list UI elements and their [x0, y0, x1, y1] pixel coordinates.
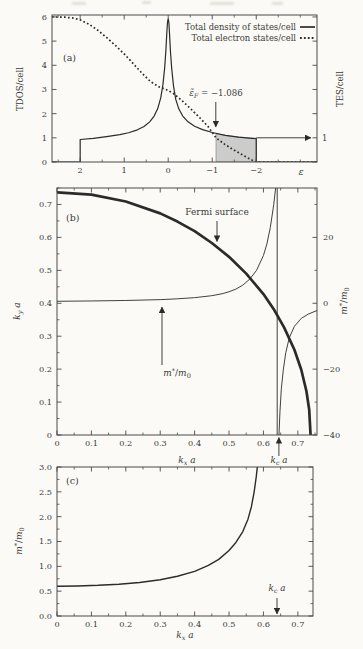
panel-c-ticks: 00.10.20.30.40.50.60.70.00.51.01.52.02.5… — [39, 462, 313, 629]
panel-c-y-tick-label: 0.0 — [39, 611, 52, 621]
panel-c-x-tick-label: 0 — [54, 619, 59, 629]
kc-annotation-b: kc a — [271, 455, 288, 466]
panel-b-x-tick-label: 0.3 — [154, 438, 167, 448]
panel-a-x-tick-label: 1 — [122, 165, 127, 175]
figure: 210−1−20123456(a)Total density of states… — [0, 0, 363, 649]
panel-b-y2-tick-label: 0 — [323, 298, 328, 308]
panel-b-y-tick-label: 0.1 — [39, 397, 52, 407]
panel-b-y2-tick-label: −40 — [323, 430, 340, 440]
x-axis-title-c: kx a — [176, 630, 193, 642]
panel-b-y-tick-label: 0.7 — [39, 199, 52, 209]
panel-a-y-tick-label: 0 — [42, 157, 47, 167]
panel-c-x-tick-label: 0.1 — [85, 619, 98, 629]
panel-b-y-tick-label: 0 — [47, 430, 52, 440]
panel-b-y2-tick-label: −20 — [323, 364, 340, 374]
panel-c-y-tick-label: 1.5 — [39, 536, 52, 546]
y-axis-title-b: ky a — [12, 302, 24, 319]
y-axis-title-a: TDOS/cell — [15, 67, 25, 111]
y-axis-title-c: m*/m0 — [13, 527, 27, 555]
panel-b-x-tick-label: 0 — [54, 438, 59, 448]
panel-b-y-tick-label: 0.4 — [39, 298, 52, 308]
x-axis-title-a: ε — [298, 166, 303, 177]
panel-c-y-tick-label: 2.0 — [39, 512, 52, 522]
panel-a-x-tick-label: −1 — [206, 165, 218, 175]
kc-annotation-c: kc a — [269, 583, 286, 594]
x-axis-title-b: kx a — [178, 455, 195, 467]
effective-mass-annotation: m*/m0 — [163, 367, 191, 381]
panel-a-y-tick-label: 6 — [42, 12, 47, 22]
panel-a-x-tick-label: −2 — [250, 165, 262, 175]
panel-c-x-tick-label: 0.6 — [257, 619, 270, 629]
panel-b-y-tick-label: 0.5 — [39, 265, 52, 275]
panel-b-y-tick-label: 0.6 — [39, 232, 52, 242]
panel-b-x-tick-label: 0.7 — [291, 438, 304, 448]
panel-b-label: (b) — [66, 212, 80, 223]
panel-c-x-tick-label: 0.2 — [119, 619, 132, 629]
panel-c-y-tick-label: 0.5 — [39, 586, 52, 596]
panel-a-x-tick-label: 0 — [166, 165, 171, 175]
panel-b-y-tick-label: 0.2 — [39, 364, 52, 374]
panel-b-x-tick-label: 0.1 — [85, 438, 98, 448]
panel-a-y-tick-label: 1 — [42, 133, 47, 143]
fermi-surface-curve — [57, 192, 311, 435]
panel-b: 00.10.20.30.40.50.60.700.10.20.30.40.50.… — [12, 186, 351, 467]
legend-tdos-label: Total density of states/cell — [185, 22, 296, 32]
panel-a-x-tick-label: 2 — [78, 165, 83, 175]
y2-axis-title-b: m*/m0 — [338, 287, 352, 315]
panel-c-x-tick-label: 0.4 — [188, 619, 201, 629]
panel-a-y-tick-label: 5 — [42, 36, 47, 46]
panel-a-y-tick-label: 4 — [42, 60, 47, 70]
panel-b-x-tick-label: 0.5 — [223, 438, 236, 448]
panel-a-label: (a) — [63, 52, 76, 63]
panel-b-y2-tick-label: 20 — [323, 232, 333, 242]
panel-c-y-tick-label: 3.0 — [39, 462, 52, 472]
tes-value-label: 1 — [322, 133, 327, 143]
panel-c-y-tick-label: 2.5 — [39, 487, 52, 497]
fermi-surface-annotation: Fermi surface — [185, 207, 248, 217]
panel-a-y-tick-label: 3 — [42, 84, 47, 94]
effective-mass-curve-c — [57, 465, 258, 587]
panel-c: 00.10.20.30.40.50.60.70.00.51.01.52.02.5… — [13, 462, 313, 643]
y2-axis-title-a: TES/cell — [335, 71, 345, 107]
panel-b-x-tick-label: 0.6 — [257, 438, 270, 448]
panel-c-x-tick-label: 0.3 — [154, 619, 167, 629]
panel-b-y-tick-label: 0.3 — [39, 331, 52, 341]
panel-b-x-tick-label: 0.4 — [188, 438, 201, 448]
effective-mass-curve-left — [57, 186, 276, 301]
panel-c-label: (c) — [66, 475, 79, 486]
panel-a-y-tick-label: 2 — [42, 109, 47, 119]
panel-a: 210−1−20123456(a)Total density of states… — [15, 12, 345, 177]
panel-c-x-tick-label: 0.5 — [223, 619, 236, 629]
legend-tes-label: Total electron states/cell — [191, 33, 296, 43]
panel-b-x-tick-label: 0.2 — [119, 438, 132, 448]
fermi-energy-annotation: ε̃F = −1.086 — [189, 88, 242, 99]
panel-b-frame — [57, 188, 317, 435]
panel-c-x-tick-label: 0.7 — [291, 619, 304, 629]
panel-c-y-tick-label: 1.0 — [39, 561, 52, 571]
